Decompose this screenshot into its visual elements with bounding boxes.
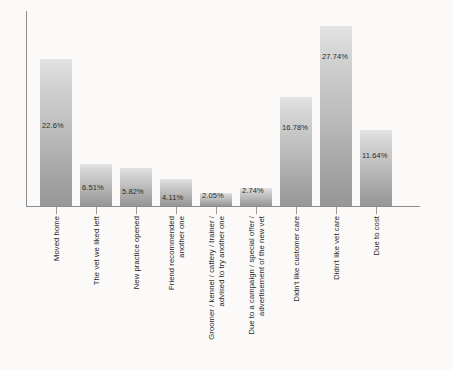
x-axis-category-label: Moved home [52, 216, 62, 366]
x-axis-tick [256, 207, 257, 214]
x-axis-category-label: Due to cost [372, 216, 382, 366]
plot-area: 22.6%6.51%5.82%4.11%2.05%2.74%16.78%27.7… [26, 11, 420, 206]
x-axis-tick [176, 207, 177, 214]
x-axis-tick [96, 207, 97, 214]
bar-group: 2.05% [196, 11, 236, 206]
bar-group: 16.78% [276, 11, 316, 206]
bar[interactable] [40, 59, 72, 206]
x-axis-tick [376, 207, 377, 214]
bar-value-label: 11.64% [358, 151, 404, 160]
bar[interactable] [360, 130, 392, 206]
bar-group: 4.11% [156, 11, 196, 206]
bar-group: 27.74% [316, 11, 356, 206]
bar-group: 22.6% [36, 11, 76, 206]
x-axis-category-label: Didn't like customer care [292, 216, 302, 366]
x-axis-category-label: Friend recommendedanother one [167, 216, 186, 366]
bar-group: 11.64% [356, 11, 396, 206]
bar-group: 2.74% [236, 11, 276, 206]
bar-group: 6.51% [76, 11, 116, 206]
x-axis-tick [136, 207, 137, 214]
x-axis-tick [56, 207, 57, 214]
x-axis-category-label: Groomer / kennel / cattery / trainer /ad… [207, 216, 226, 366]
x-axis-category-label: Due to a campaign / special offer /adver… [247, 216, 266, 366]
x-axis-tick [336, 207, 337, 214]
x-axis-line [26, 206, 420, 207]
x-axis-category-label: Didn't like vet care [332, 216, 342, 366]
x-axis-category-label: The vet we liked left [92, 216, 102, 366]
bar-chart: 22.6%6.51%5.82%4.11%2.05%2.74%16.78%27.7… [0, 0, 453, 370]
x-axis-tick [296, 207, 297, 214]
x-axis-tick [216, 207, 217, 214]
bar[interactable] [280, 97, 312, 206]
x-axis-category-label: New practice opened [132, 216, 142, 366]
bar-group: 5.82% [116, 11, 156, 206]
